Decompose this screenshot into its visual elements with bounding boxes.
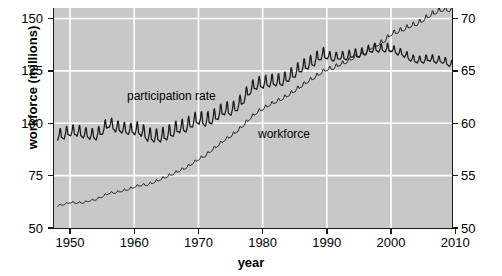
- series-label-participation-rate: participation rate: [127, 89, 216, 103]
- x-ticklabel-1990: 1990: [297, 236, 357, 249]
- series-label-workforce: workforce: [258, 127, 310, 141]
- y-ticklabel-right-65: 65: [461, 64, 475, 77]
- x-ticklabel-2010: 2010: [425, 236, 485, 249]
- y-tick-right-55: [453, 175, 458, 176]
- x-tick-1950: [69, 229, 70, 234]
- x-ticklabel-1980: 1980: [233, 236, 293, 249]
- y-ticklabel-left-50: 50: [3, 222, 43, 235]
- x-ticklabel-2000: 2000: [361, 236, 421, 249]
- x-axis-spine: [53, 228, 453, 229]
- x-tick-1970: [198, 229, 199, 234]
- plot-area: [54, 8, 452, 228]
- y-ticklabel-right-70: 70: [461, 12, 475, 25]
- y-axis-left-spine: [53, 8, 54, 229]
- y-tick-right-70: [453, 18, 458, 19]
- x-tick-2010: [455, 229, 456, 234]
- x-ticklabel-1960: 1960: [104, 236, 164, 249]
- y-ticklabel-right-60: 60: [461, 117, 475, 130]
- x-axis-title: year: [191, 255, 311, 270]
- y-ticklabel-right-55: 55: [461, 169, 475, 182]
- y-tick-left-150: [48, 18, 53, 19]
- chart-figure: 5075100125150505560657019501960197019801…: [0, 0, 502, 276]
- x-tick-1960: [134, 229, 135, 234]
- y-axis-title: workforce (millions): [25, 8, 40, 168]
- y-tick-right-60: [453, 123, 458, 124]
- x-ticklabel-1970: 1970: [168, 236, 228, 249]
- x-ticklabel-1950: 1950: [40, 236, 100, 249]
- y-tick-right-65: [453, 70, 458, 71]
- y-tick-left-50: [48, 227, 53, 228]
- y-tick-left-100: [48, 123, 53, 124]
- y-axis-right-spine: [452, 8, 453, 229]
- y-ticklabel-left-75: 75: [3, 169, 43, 182]
- x-tick-2000: [390, 229, 391, 234]
- x-tick-1980: [262, 229, 263, 234]
- plot-canvas: [54, 8, 452, 228]
- x-tick-1990: [326, 229, 327, 234]
- y-tick-left-75: [48, 175, 53, 176]
- y-tick-left-125: [48, 70, 53, 71]
- y-ticklabel-right-50: 50: [461, 222, 475, 235]
